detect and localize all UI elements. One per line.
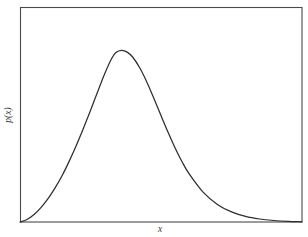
y-axis-label-text: p(x)	[3, 107, 14, 123]
figure-container: p(x) x	[0, 0, 308, 237]
x-axis-label: x	[157, 224, 163, 234]
y-axis-label: p(x)	[3, 107, 14, 123]
density-plot: p(x) x	[0, 0, 308, 237]
density-curve	[20, 50, 302, 222]
